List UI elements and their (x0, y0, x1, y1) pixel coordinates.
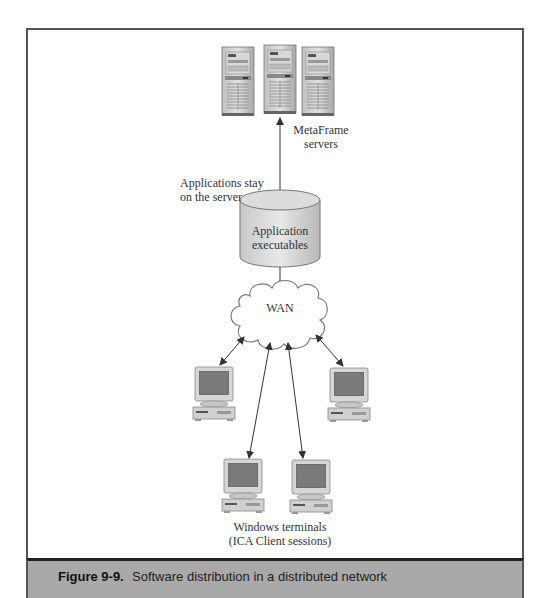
server-icon (264, 45, 296, 114)
metaframe-servers (222, 45, 334, 116)
servers-label-line1: MetaFrame (286, 123, 356, 137)
database-label: Application executables (240, 224, 320, 252)
terminal-icon (222, 459, 264, 513)
edge-wan-terminal-1 (220, 337, 244, 365)
terminal-icon (328, 368, 370, 422)
annotation-line2: on the server (180, 190, 290, 204)
edge-wan-terminal-3 (288, 343, 303, 458)
wan-label: WAN (255, 301, 305, 315)
servers-label-line2: servers (286, 137, 356, 151)
terminals-label-line2: (ICA Client sessions) (205, 534, 355, 548)
terminals-label: Windows terminals (ICA Client sessions) (205, 520, 355, 548)
server-icon (302, 47, 334, 116)
server-icon (222, 47, 254, 116)
database-label-line1: Application (240, 224, 320, 238)
figure-caption-bar: Figure 9-9. Software distribution in a d… (26, 558, 524, 598)
edge-wan-terminal-2 (249, 343, 270, 458)
figure-caption: Software distribution in a distributed n… (132, 569, 387, 584)
annotation-line1: Applications stay (180, 176, 290, 190)
edge-wan-terminal-4 (316, 335, 343, 366)
terminals-label-line1: Windows terminals (205, 520, 355, 534)
database-label-line2: executables (240, 238, 320, 252)
servers-label: MetaFrame servers (286, 123, 356, 151)
terminal-icon (290, 460, 332, 514)
annotation-label: Applications stay on the server (180, 176, 290, 204)
figure-number: Figure 9-9. (58, 569, 124, 584)
terminal-icon (193, 367, 235, 421)
